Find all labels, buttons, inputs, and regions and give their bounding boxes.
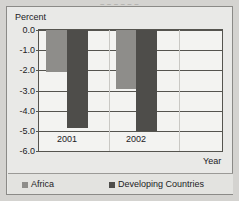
y-tick-mark — [36, 70, 39, 71]
gridline — [39, 151, 222, 152]
bar-africa-2002 — [116, 30, 137, 89]
chart-figure: – – – – – – Percent 0.0-1.0-2.0-3.0-4.0-… — [0, 0, 239, 201]
y-tick-mark — [36, 91, 39, 92]
y-tick-label: -5.0 — [19, 127, 35, 136]
y-tick-label: -6.0 — [19, 147, 35, 156]
category-separator — [109, 30, 110, 151]
gridline — [39, 131, 222, 132]
y-tick-label: 0.0 — [22, 26, 35, 35]
plot-inner: 0.0-1.0-2.0-3.0-4.0-5.0-6.0 — [39, 30, 222, 151]
bar-developing-countries-2001 — [67, 30, 88, 128]
category-separator — [179, 30, 180, 151]
bar-developing-countries-2002 — [136, 30, 157, 131]
y-tick-label: -4.0 — [19, 107, 35, 116]
legend-swatch-icon — [22, 182, 28, 188]
chart-legend: Africa Developing Countries — [8, 173, 233, 194]
y-tick-mark — [36, 131, 39, 132]
y-tick-mark — [36, 151, 39, 152]
legend-label: Africa — [31, 179, 54, 190]
y-tick-mark — [36, 111, 39, 112]
y-tick-mark — [36, 50, 39, 51]
x-tick-label: 2001 — [57, 134, 77, 145]
y-tick-label: -2.0 — [19, 66, 35, 75]
y-tick-mark — [36, 30, 39, 31]
y-tick-label: -3.0 — [19, 87, 35, 96]
x-axis-label: Year — [203, 156, 221, 167]
legend-swatch-icon — [109, 182, 115, 188]
chart-card: Percent 0.0-1.0-2.0-3.0-4.0-5.0-6.0 Year… — [6, 6, 233, 195]
legend-item-developing-countries: Developing Countries — [109, 179, 204, 190]
legend-label: Developing Countries — [118, 179, 204, 190]
x-tick-label: 2002 — [126, 134, 146, 145]
y-axis-label: Percent — [15, 12, 46, 23]
y-tick-label: -1.0 — [19, 46, 35, 55]
legend-item-africa: Africa — [22, 179, 54, 190]
bar-africa-2001 — [46, 30, 67, 72]
